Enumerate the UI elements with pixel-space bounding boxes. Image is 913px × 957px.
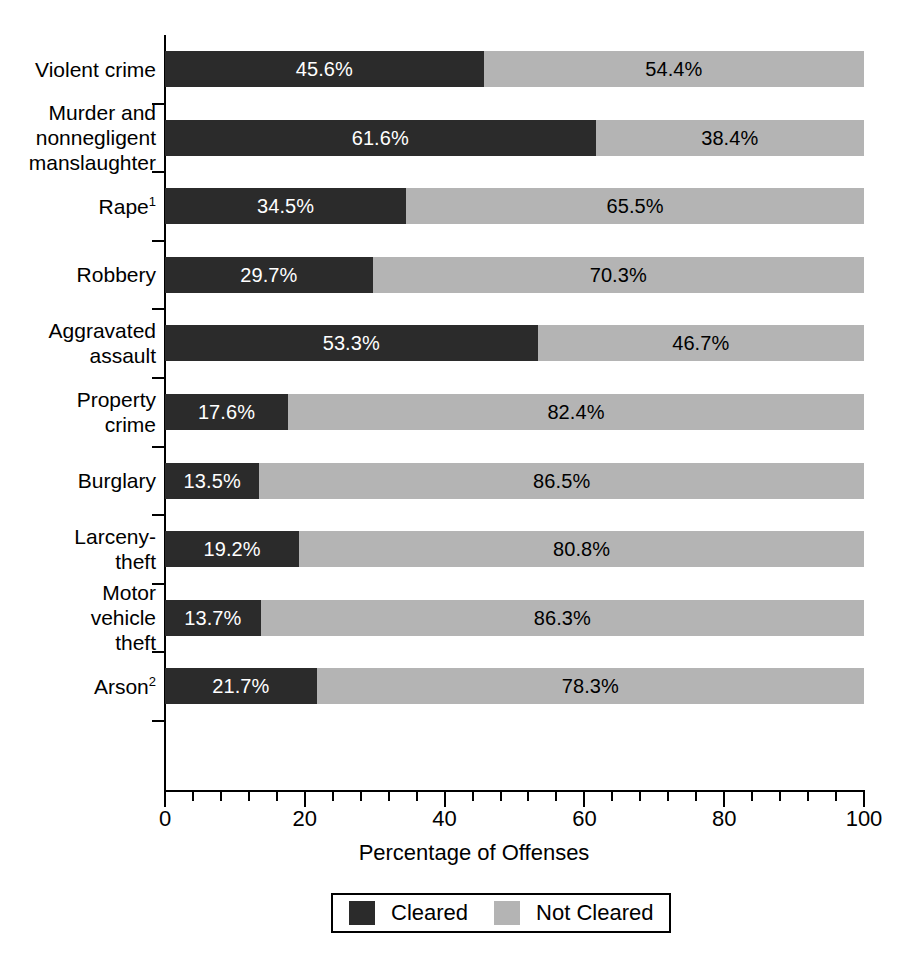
x-axis-title: Percentage of Offenses xyxy=(0,840,913,866)
x-axis-tick-label: 100 xyxy=(846,806,883,832)
x-axis-tick-label: 40 xyxy=(432,806,456,832)
legend-item-not-cleared: Not Cleared xyxy=(494,900,653,926)
bar-value-label-not-cleared: 65.5% xyxy=(606,196,663,216)
bar-segment-cleared: 53.3% xyxy=(165,325,538,361)
category-label-line: Murder and xyxy=(5,100,156,125)
category-label-line: theft xyxy=(5,549,156,574)
category-label-line: Rape1 xyxy=(5,194,156,219)
bar-row: 21.7%78.3% xyxy=(165,652,864,721)
x-axis-major-tick xyxy=(583,792,585,807)
x-axis-major-tick xyxy=(444,792,446,807)
x-axis-minor-tick xyxy=(835,792,837,801)
category-label-line: Violent crime xyxy=(5,57,156,82)
bar-value-label-not-cleared: 38.4% xyxy=(701,128,758,148)
legend-item-cleared: Cleared xyxy=(349,900,468,926)
y-axis-tick xyxy=(152,171,165,173)
category-label-column: Violent crimeMurder andnonnegligentmansl… xyxy=(0,35,165,790)
category-label: Violent crime xyxy=(5,57,165,82)
y-axis-tick xyxy=(152,103,165,105)
y-axis-tick xyxy=(152,446,165,448)
stacked-bar: 61.6%38.4% xyxy=(165,120,864,156)
bar-row: 13.5%86.5% xyxy=(165,447,864,516)
category-label-line: assault xyxy=(5,343,156,368)
bar-value-label-cleared: 19.2% xyxy=(203,539,260,559)
bar-segment-not-cleared: 82.4% xyxy=(288,394,864,430)
bar-segment-cleared: 17.6% xyxy=(165,394,288,430)
bar-segment-cleared: 19.2% xyxy=(165,531,299,567)
stacked-bar: 45.6%54.4% xyxy=(165,51,864,87)
stacked-bar: 13.7%86.3% xyxy=(165,600,864,636)
bar-value-label-not-cleared: 82.4% xyxy=(547,402,604,422)
x-axis-minor-tick xyxy=(527,792,529,801)
bar-value-label-cleared: 21.7% xyxy=(212,676,269,696)
chart-legend: Cleared Not Cleared xyxy=(331,893,671,933)
bar-row: 53.3%46.7% xyxy=(165,309,864,378)
x-axis-minor-tick xyxy=(276,792,278,801)
x-axis-minor-tick xyxy=(779,792,781,801)
x-axis-minor-tick xyxy=(611,792,613,801)
category-label-line: Arson2 xyxy=(5,674,156,699)
category-label-line: Aggravated xyxy=(5,318,156,343)
bar-value-label-not-cleared: 86.5% xyxy=(533,471,590,491)
category-label: Rape1 xyxy=(5,194,165,219)
x-axis-minor-tick xyxy=(220,792,222,801)
x-axis-line xyxy=(164,790,865,792)
stacked-bar: 17.6%82.4% xyxy=(165,394,864,430)
bar-segment-not-cleared: 54.4% xyxy=(484,51,864,87)
bar-row: 29.7%70.3% xyxy=(165,241,864,310)
category-label: Robbery xyxy=(5,262,165,287)
category-label: Murder andnonnegligentmanslaughter xyxy=(5,100,165,175)
x-axis-minor-tick xyxy=(192,792,194,801)
bar-segment-cleared: 13.7% xyxy=(165,600,261,636)
bar-segment-cleared: 29.7% xyxy=(165,257,373,293)
x-axis-minor-tick xyxy=(639,792,641,801)
x-axis-major-tick xyxy=(304,792,306,807)
legend-label-not-cleared: Not Cleared xyxy=(536,900,653,926)
category-label-footnote: 2 xyxy=(149,674,156,689)
x-axis-title-text: Percentage of Offenses xyxy=(359,840,590,865)
category-label-line: manslaughter xyxy=(5,150,156,175)
y-axis-tick xyxy=(152,377,165,379)
bar-value-label-cleared: 45.6% xyxy=(296,59,353,79)
y-axis-tick xyxy=(152,651,165,653)
stacked-bar: 34.5%65.5% xyxy=(165,188,864,224)
bar-segment-cleared: 13.5% xyxy=(165,463,259,499)
bar-segment-not-cleared: 70.3% xyxy=(373,257,864,293)
bar-value-label-cleared: 29.7% xyxy=(240,265,297,285)
bar-row: 17.6%82.4% xyxy=(165,378,864,447)
bar-row: 61.6%38.4% xyxy=(165,104,864,173)
stacked-bar: 29.7%70.3% xyxy=(165,257,864,293)
bar-value-label-not-cleared: 46.7% xyxy=(672,333,729,353)
x-axis-minor-tick xyxy=(695,792,697,801)
x-axis-minor-tick xyxy=(472,792,474,801)
category-label-line: Motor xyxy=(5,580,156,605)
y-axis-tick xyxy=(152,240,165,242)
x-axis-minor-tick xyxy=(416,792,418,801)
bar-segment-not-cleared: 65.5% xyxy=(406,188,864,224)
category-label-line: Larceny- xyxy=(5,524,156,549)
y-axis-tick xyxy=(152,720,165,722)
stacked-bar: 19.2%80.8% xyxy=(165,531,864,567)
bar-segment-not-cleared: 86.5% xyxy=(259,463,864,499)
y-axis-tick xyxy=(152,514,165,516)
stacked-bar: 53.3%46.7% xyxy=(165,325,864,361)
x-axis-major-tick xyxy=(723,792,725,807)
bar-value-label-cleared: 13.7% xyxy=(184,608,241,628)
legend-swatch-not-cleared-icon xyxy=(494,901,520,925)
stacked-bar: 21.7%78.3% xyxy=(165,668,864,704)
x-axis-minor-tick xyxy=(500,792,502,801)
y-axis-tick xyxy=(152,308,165,310)
x-axis-major-tick xyxy=(164,792,166,807)
y-axis-tick xyxy=(152,583,165,585)
bar-value-label-cleared: 34.5% xyxy=(257,196,314,216)
x-axis-tick-label: 60 xyxy=(572,806,596,832)
category-label: Aggravatedassault xyxy=(5,318,165,368)
category-label: Larceny-theft xyxy=(5,524,165,574)
category-label: Arson2 xyxy=(5,674,165,699)
category-label-footnote: 1 xyxy=(149,194,156,209)
x-axis-tick-label: 0 xyxy=(159,806,171,832)
bar-value-label-not-cleared: 70.3% xyxy=(590,265,647,285)
category-label: Burglary xyxy=(5,468,165,493)
category-label-line: Robbery xyxy=(5,262,156,287)
bar-value-label-not-cleared: 80.8% xyxy=(553,539,610,559)
